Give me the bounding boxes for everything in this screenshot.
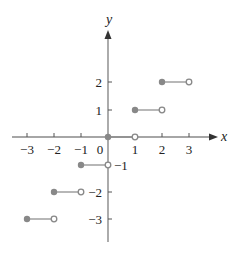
y-tick-label: 1	[96, 103, 103, 118]
x-tick-label: 1	[132, 142, 139, 157]
y-axis-label: y	[104, 12, 113, 27]
closed-point-icon	[159, 79, 165, 85]
closed-point-icon	[105, 134, 111, 140]
axes	[12, 30, 218, 242]
open-point-icon	[51, 216, 57, 222]
y-tick-label: −1	[114, 158, 128, 173]
y-tick-label: −2	[88, 185, 102, 200]
open-point-icon	[159, 107, 165, 113]
x-tick-label: −2	[47, 142, 61, 157]
x-tick-label: 0	[97, 142, 104, 157]
x-tick-label: −3	[20, 142, 34, 157]
open-points	[51, 79, 192, 222]
y-axis-arrow-icon	[105, 30, 112, 39]
open-point-icon	[132, 134, 138, 140]
closed-point-icon	[24, 216, 30, 222]
x-tick-label: 2	[159, 142, 166, 157]
open-point-icon	[105, 162, 111, 168]
x-axis-label: x	[220, 129, 228, 144]
y-tick-label: 2	[96, 75, 103, 90]
open-point-icon	[186, 79, 192, 85]
x-tick-label: 3	[186, 142, 193, 157]
step-function-chart: −3 −2 −1 0 1 2 3 2 1 −1 −2 −3 x y	[0, 0, 239, 255]
closed-point-icon	[132, 107, 138, 113]
x-axis-arrow-icon	[209, 134, 218, 141]
open-point-icon	[78, 189, 84, 195]
x-tick-label: −1	[74, 142, 88, 157]
closed-point-icon	[51, 189, 57, 195]
y-tick-label: −3	[88, 212, 102, 227]
closed-point-icon	[78, 162, 84, 168]
closed-points	[24, 79, 165, 222]
